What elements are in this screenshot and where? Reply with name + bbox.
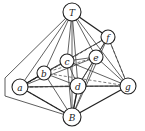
node-label: b (41, 69, 47, 79)
node-label: T (69, 8, 76, 18)
graph-diagram: TfecbadgB (0, 0, 145, 131)
node-label: d (75, 82, 81, 92)
solid-edges (20, 12, 128, 117)
node-label: e (93, 53, 98, 63)
node-T: T (63, 3, 81, 21)
node-d: d (70, 78, 86, 94)
node-B: B (63, 108, 81, 126)
node-e: e (89, 50, 103, 64)
node-a: a (12, 79, 28, 95)
node-label: c (64, 57, 69, 67)
node-b: b (37, 66, 51, 80)
node-label: a (17, 83, 22, 93)
node-f: f (101, 30, 115, 44)
node-label: g (125, 82, 131, 92)
node-label: B (68, 113, 76, 123)
node-g: g (120, 78, 136, 94)
node-c: c (60, 54, 74, 68)
